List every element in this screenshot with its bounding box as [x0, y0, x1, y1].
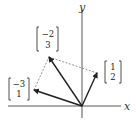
- svg-text:−3: −3: [13, 79, 26, 89]
- dashed-side-left: [34, 57, 49, 90]
- x-axis-label: x: [124, 100, 131, 113]
- vector-neg3-1-arrow: [34, 90, 82, 106]
- label-vector-1-2: 1 2: [105, 61, 121, 83]
- vector-1-2-arrow: [82, 73, 97, 106]
- svg-text:2: 2: [110, 72, 115, 82]
- svg-text:1: 1: [16, 89, 21, 99]
- svg-text:1: 1: [110, 62, 115, 72]
- label-vector-neg3-1: −3 1: [9, 78, 29, 100]
- svg-text:−2: −2: [42, 29, 55, 39]
- vector-diagram: x y −2 3 −3 1 1 2: [0, 0, 136, 126]
- label-vector-sum: −2 3: [37, 27, 58, 51]
- dashed-side-top: [49, 57, 97, 73]
- y-axis-label: y: [78, 1, 86, 14]
- vector-sum-arrow: [49, 57, 82, 106]
- svg-text:3: 3: [45, 40, 50, 50]
